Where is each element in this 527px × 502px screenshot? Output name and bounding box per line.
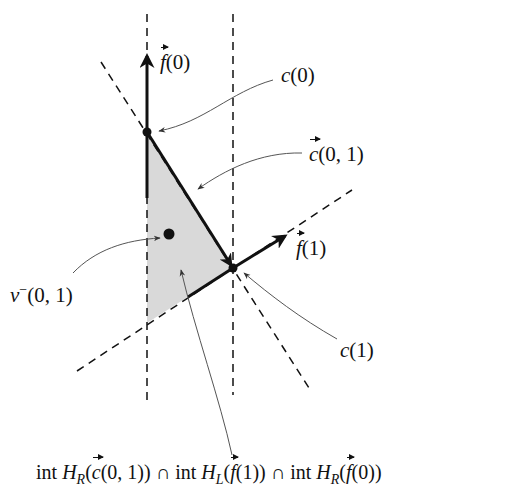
point-c0 (143, 128, 152, 137)
label-c0-name: c (281, 63, 290, 87)
label-c0: c(0) (281, 65, 315, 86)
label-v-minus-name: v (10, 283, 19, 307)
region-H-2: H (201, 461, 215, 483)
region-vec-1: c (92, 462, 101, 482)
region-arg-2: (1)) (236, 461, 266, 483)
label-f0: f(0) (160, 52, 190, 73)
label-v-minus-sup: − (19, 282, 27, 297)
region-vec-3: f (346, 462, 352, 482)
diagram-canvas (0, 0, 527, 502)
label-f0-arg: (0) (166, 50, 191, 74)
leader-c01 (198, 153, 302, 189)
leader-c0 (159, 80, 273, 131)
label-f1-arg: (1) (302, 236, 327, 260)
leader-c1 (244, 273, 337, 339)
region-arg-3: (0)) (352, 461, 382, 483)
region-sub-3: R (331, 472, 340, 487)
region-open-3: ( (339, 461, 346, 483)
label-c1-name: c (340, 338, 349, 362)
region-int-3: int (290, 461, 311, 483)
region-sub-1: R (77, 472, 86, 487)
label-f1: f(1) (296, 238, 326, 259)
region-vec-2: f (230, 462, 236, 482)
label-c01-vec: c (309, 144, 318, 165)
label-v-minus: v−(0, 1) (10, 285, 73, 306)
region-int-1: int (36, 461, 57, 483)
label-v-minus-arg: (0, 1) (27, 283, 73, 307)
region-H-3: H (316, 461, 330, 483)
label-c01-arg: (0, 1) (318, 142, 364, 166)
label-f1-vec: f (296, 238, 302, 259)
point-c1 (229, 264, 238, 273)
region-open-2: ( (224, 461, 231, 483)
point-v-minus (164, 229, 175, 240)
region-sub-2: L (216, 472, 224, 487)
vector-f1 (233, 236, 285, 268)
label-c1: c(1) (340, 340, 374, 361)
label-c01: c(0, 1) (309, 144, 364, 165)
label-region: int HR(c(0, 1)) ∩ int HL(f(1)) ∩ int HR(… (36, 462, 382, 482)
label-c0-arg: (0) (290, 63, 315, 87)
region-cap-1: ∩ (151, 461, 175, 483)
region-open-1: ( (85, 461, 92, 483)
region-cap-2: ∩ (266, 461, 290, 483)
region-H-1: H (62, 461, 76, 483)
label-f0-vec: f (160, 52, 166, 73)
label-c1-arg: (1) (349, 338, 374, 362)
region-int-2: int (175, 461, 196, 483)
region-arg-1: (0, 1)) (101, 461, 151, 483)
